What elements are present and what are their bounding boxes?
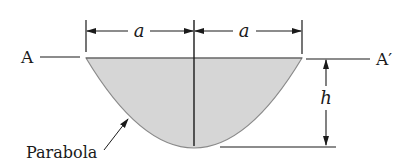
label-h: h xyxy=(320,87,332,108)
label-a-right: a xyxy=(239,20,250,41)
parabola-leader-arrow xyxy=(104,119,128,150)
label-section-left: A xyxy=(20,47,34,67)
parabolic-area-diagram: a a A A′ h Parabola xyxy=(0,0,419,166)
label-section-right: A′ xyxy=(375,49,392,69)
label-a-left: a xyxy=(134,20,145,41)
label-parabola: Parabola xyxy=(26,143,98,162)
